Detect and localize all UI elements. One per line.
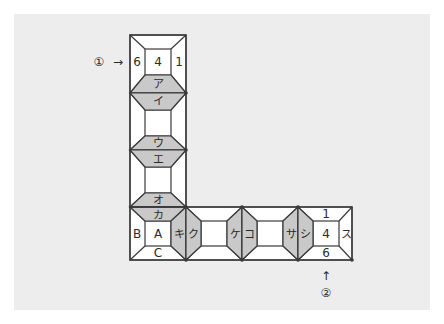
cell-h0-face-left: B <box>133 228 141 240</box>
joint-dot-h0-br <box>184 258 188 262</box>
cell-v0-face-center: 4 <box>154 56 162 68</box>
marker-2-symbol: ② <box>321 287 332 299</box>
joint-dot-h0-tr <box>184 205 188 209</box>
cell-h3-face-left: シ <box>300 229 311 240</box>
cell-v0-face-bottom: ア <box>153 79 164 90</box>
cell-h0-face-right: キ <box>174 229 185 240</box>
cell-v2-face-top: エ <box>153 154 164 165</box>
cell-h0-face-center: A <box>154 228 162 240</box>
joint-dot-h1-tr <box>240 205 244 209</box>
cell-h1-face-left: ク <box>188 229 199 240</box>
cell-h2-face-left: コ <box>244 229 255 240</box>
cell-h3-face-top: 1 <box>322 208 330 220</box>
cell-h3-face-bottom: 6 <box>322 247 330 259</box>
joint-dot-v1-br <box>184 148 188 152</box>
cell-v1-face-bottom: ウ <box>153 138 164 149</box>
marker-1-arrow-icon: → <box>113 56 123 68</box>
cell-h0-face-bottom: C <box>154 247 162 259</box>
joint-dot-h3-br <box>350 258 354 262</box>
marker-2-arrow-icon: ↑ <box>321 270 331 282</box>
cell-v2-center-face <box>145 167 171 193</box>
diagram-stage: ① → 6 4 1 ア イ ウ エ オ カ B A C キ ク ケ コ サ シ … <box>0 0 444 324</box>
cell-h0-face-top: カ <box>153 210 164 221</box>
cell-v2-face-bottom: オ <box>153 195 164 206</box>
joint-dot-h2-tr <box>296 205 300 209</box>
cell-v0-face-left: 6 <box>133 56 141 68</box>
cell-v1-face-top: イ <box>153 96 164 107</box>
joint-dot-v0-br <box>184 91 188 95</box>
cell-h1-center-face <box>201 221 227 246</box>
cell-h2-center-face <box>257 221 283 246</box>
joint-dot-h2-br <box>296 258 300 262</box>
cell-h3-face-center: 4 <box>322 228 330 240</box>
cell-v1-center-face <box>145 110 171 136</box>
cell-h1-face-right: ケ <box>230 229 241 240</box>
cell-v0-face-right: 1 <box>175 56 183 68</box>
cell-h2-face-right: サ <box>286 229 297 240</box>
cell-h3-face-right: ス <box>341 229 352 240</box>
diagram-svg <box>0 0 444 324</box>
marker-1-symbol: ① <box>94 56 105 68</box>
joint-dot-h1-br <box>240 258 244 262</box>
